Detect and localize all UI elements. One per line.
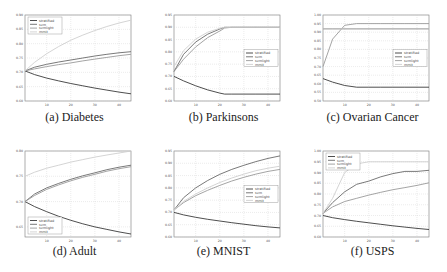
y-tick-label: 0.70 bbox=[314, 214, 321, 218]
y-tick-label: 0.50 bbox=[314, 99, 321, 103]
x-tick-label: 30 bbox=[93, 239, 97, 243]
legend: stratifiedsvmsvmlightmmit bbox=[244, 50, 278, 67]
y-tick-label: 0.75 bbox=[314, 56, 321, 60]
y-tick-label: 0.85 bbox=[165, 174, 172, 178]
plot-area: 102030400.500.550.600.650.700.750.800.85… bbox=[314, 13, 429, 107]
chart-caption: (b) Parkinsons bbox=[149, 110, 298, 125]
x-tick-label: 20 bbox=[367, 239, 371, 243]
x-tick-label: 40 bbox=[266, 239, 270, 243]
y-tick-label: 0.65 bbox=[165, 87, 172, 91]
legend-label-mmit: mmit bbox=[255, 63, 265, 67]
y-tick-label: 0.85 bbox=[314, 181, 321, 185]
y-tick-label: 0.85 bbox=[314, 39, 321, 43]
x-tick-label: 40 bbox=[415, 103, 419, 107]
x-tick-label: 40 bbox=[117, 239, 121, 243]
y-tick-label: 0.65 bbox=[314, 224, 321, 228]
y-tick-label: 1.00 bbox=[314, 13, 321, 17]
y-tick-label: 0.95 bbox=[165, 13, 172, 17]
y-tick-label: 0.65 bbox=[314, 73, 321, 77]
x-tick-label: 10 bbox=[343, 239, 347, 243]
y-tick-label: 0.70 bbox=[16, 70, 23, 74]
legend-label-mmit: mmit bbox=[404, 63, 414, 67]
y-tick-label: 0.70 bbox=[165, 210, 172, 214]
legend: stratifiedsvmsvmlightmmit bbox=[326, 153, 360, 170]
x-tick-label: 20 bbox=[69, 103, 73, 107]
y-tick-label: 0.65 bbox=[16, 225, 23, 229]
y-tick-label: 0.55 bbox=[314, 90, 321, 94]
legend-label-mmit: mmit bbox=[337, 166, 347, 170]
x-tick-label: 30 bbox=[242, 239, 246, 243]
y-tick-label: 0.85 bbox=[165, 38, 172, 42]
plot-area: 102030400.600.650.700.750.800.850.900.95… bbox=[165, 149, 280, 243]
plot-area: 102030400.600.650.700.750.800.850.900.95… bbox=[165, 13, 280, 107]
legend: stratifiedsvmsvmlightmmit bbox=[28, 17, 62, 34]
y-tick-label: 0.80 bbox=[165, 50, 172, 54]
y-tick-label: 0.75 bbox=[16, 174, 23, 178]
x-tick-label: 30 bbox=[93, 103, 97, 107]
plot-area: 102030400.650.700.750.80stratifiedsvmsvm… bbox=[16, 149, 131, 243]
y-tick-label: 0.70 bbox=[16, 200, 23, 204]
chart-adult: 102030400.650.700.750.80stratifiedsvmsvm… bbox=[0, 136, 149, 272]
y-tick-label: 0.85 bbox=[16, 27, 23, 31]
y-tick-label: 0.90 bbox=[16, 13, 23, 17]
y-tick-label: 0.70 bbox=[314, 65, 321, 69]
chart-ovarian-cancer: 102030400.500.550.600.650.700.750.800.85… bbox=[298, 0, 447, 136]
chart-parkinsons: 102030400.600.650.700.750.800.850.900.95… bbox=[149, 0, 298, 136]
y-tick-label: 0.75 bbox=[165, 198, 172, 202]
chart-caption: (e) MNIST bbox=[149, 244, 298, 259]
y-tick-label: 0.75 bbox=[16, 56, 23, 60]
x-tick-label: 20 bbox=[69, 239, 73, 243]
chart-mnist: 102030400.600.650.700.750.800.850.900.95… bbox=[149, 136, 298, 272]
y-tick-label: 0.60 bbox=[314, 235, 321, 239]
plot-area: 102030400.600.650.700.750.800.850.900.95… bbox=[314, 149, 429, 243]
y-tick-label: 0.80 bbox=[16, 42, 23, 46]
chart-caption: (a) Diabetes bbox=[0, 110, 149, 125]
y-tick-label: 0.95 bbox=[165, 149, 172, 153]
y-tick-label: 0.60 bbox=[165, 235, 172, 239]
y-tick-label: 0.75 bbox=[165, 62, 172, 66]
x-tick-label: 10 bbox=[343, 103, 347, 107]
y-tick-label: 0.95 bbox=[314, 22, 321, 26]
x-tick-label: 10 bbox=[194, 239, 198, 243]
x-tick-label: 30 bbox=[391, 103, 395, 107]
x-tick-label: 20 bbox=[218, 239, 222, 243]
x-tick-label: 30 bbox=[242, 103, 246, 107]
y-tick-label: 0.80 bbox=[314, 47, 321, 51]
legend-label-mmit: mmit bbox=[39, 230, 49, 234]
y-tick-label: 0.60 bbox=[16, 99, 23, 103]
y-tick-label: 0.95 bbox=[314, 160, 321, 164]
y-tick-label: 0.65 bbox=[165, 223, 172, 227]
x-tick-label: 40 bbox=[415, 239, 419, 243]
legend: stratifiedsvmsvmlightmmit bbox=[28, 217, 62, 234]
x-tick-label: 20 bbox=[367, 103, 371, 107]
y-tick-label: 0.60 bbox=[165, 99, 172, 103]
chart-caption: (c) Ovarian Cancer bbox=[298, 110, 447, 125]
legend: stratifiedsvmsvmlightmmit bbox=[393, 50, 427, 67]
x-tick-label: 10 bbox=[45, 103, 49, 107]
x-tick-label: 40 bbox=[117, 103, 121, 107]
chart-usps: 102030400.600.650.700.750.800.850.900.95… bbox=[298, 136, 447, 272]
y-tick-label: 0.75 bbox=[314, 203, 321, 207]
y-tick-label: 0.90 bbox=[314, 171, 321, 175]
y-tick-label: 0.90 bbox=[314, 30, 321, 34]
x-tick-label: 10 bbox=[45, 239, 49, 243]
legend-label-mmit: mmit bbox=[39, 30, 49, 34]
chart-caption: (f) USPS bbox=[298, 244, 447, 259]
y-tick-label: 0.80 bbox=[314, 192, 321, 196]
x-tick-label: 10 bbox=[194, 103, 198, 107]
y-tick-label: 1.00 bbox=[314, 149, 321, 153]
plot-area: 102030400.600.650.700.750.800.850.90stra… bbox=[16, 13, 131, 107]
x-tick-label: 20 bbox=[218, 103, 222, 107]
y-tick-label: 0.80 bbox=[16, 149, 23, 153]
legend: stratifiedsvmsvmlightmmit bbox=[244, 186, 278, 203]
legend-label-mmit: mmit bbox=[255, 199, 265, 203]
chart-caption: (d) Adult bbox=[0, 244, 149, 259]
y-tick-label: 0.90 bbox=[165, 161, 172, 165]
x-tick-label: 40 bbox=[266, 103, 270, 107]
x-tick-label: 30 bbox=[391, 239, 395, 243]
y-tick-label: 0.60 bbox=[314, 82, 321, 86]
chart-diabetes: 102030400.600.650.700.750.800.850.90stra… bbox=[0, 0, 149, 136]
y-tick-label: 0.90 bbox=[165, 25, 172, 29]
y-tick-label: 0.70 bbox=[165, 74, 172, 78]
y-tick-label: 0.80 bbox=[165, 186, 172, 190]
